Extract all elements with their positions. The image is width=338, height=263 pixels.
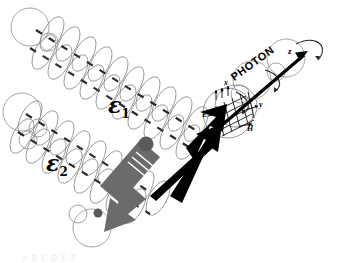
axis-z-label: z	[288, 46, 292, 56]
epsilon-1-label: ε1	[108, 92, 130, 121]
circular-polarization-wave-epsilon-1	[11, 8, 213, 163]
cropped-caption-strip: A B C D E F	[0, 254, 338, 263]
figure-vector-canvas	[0, 0, 338, 263]
photon-polarization-figure: ε1 ε2 PHOTON z x y E H A B C D E F	[0, 0, 338, 263]
incident-beam-arrow	[94, 137, 161, 233]
caption-ghost-text: A B C D E F	[0, 254, 338, 263]
axis-x-label: x	[224, 78, 228, 87]
axis-y-label: y	[259, 100, 263, 109]
epsilon-2-label: ε2	[46, 150, 68, 179]
field-e-label: E	[202, 110, 207, 119]
field-h-label: H	[247, 124, 253, 133]
